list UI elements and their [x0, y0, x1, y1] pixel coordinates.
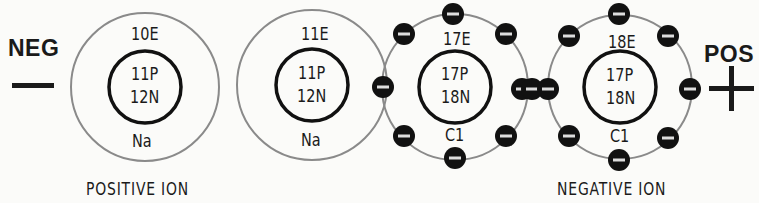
atom-diagrams	[0, 0, 759, 203]
shell-electron-count: 11E	[301, 26, 329, 43]
negative-ion-caption: NEGATIVE ION	[557, 181, 666, 198]
element-symbol: C1	[445, 127, 464, 144]
element-symbol: Na	[301, 132, 321, 149]
shell-electron-count: 18E	[608, 34, 636, 51]
neutron-count: 12N	[297, 88, 326, 105]
ion-formation-diagram: NEG POS	[0, 0, 759, 203]
proton-count: 17P	[606, 67, 633, 84]
positive-ion-caption: POSITIVE ION	[86, 181, 189, 198]
proton-count: 11P	[298, 65, 325, 82]
shell-electron-count: 17E	[443, 31, 471, 48]
nucleus	[276, 49, 348, 121]
shell-electron-count: 10E	[131, 26, 159, 43]
neutron-count: 18N	[441, 89, 470, 106]
element-symbol: Na	[132, 133, 152, 150]
proton-count: 17P	[441, 66, 468, 83]
element-symbol: C1	[610, 128, 629, 145]
nucleus	[584, 51, 656, 123]
neutron-count: 18N	[606, 90, 635, 107]
proton-count: 11P	[131, 66, 158, 83]
neutron-count: 12N	[130, 89, 159, 106]
